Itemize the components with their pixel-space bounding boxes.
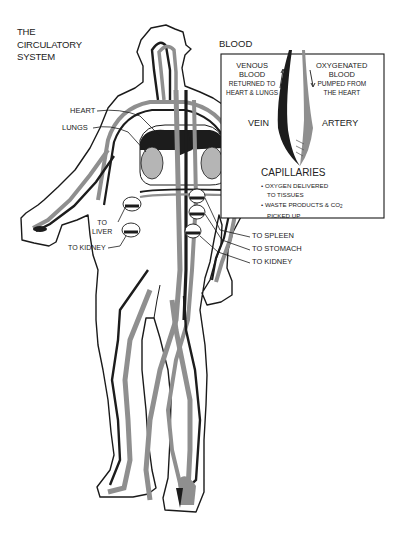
capillary-item: • WASTE PRODUCTS & CO2: [261, 200, 342, 211]
spleen-organ: [189, 189, 205, 203]
lung-left: [141, 147, 163, 179]
stomach-callout: TO STOMACH: [252, 245, 302, 254]
capillary-item: • OXYGEN DELIVERED: [261, 181, 342, 190]
title-line-2: CIRCULATORY: [17, 39, 82, 52]
liver-organ: [123, 197, 141, 211]
title-line-1: THE: [17, 26, 82, 39]
heart-callout: HEART: [70, 107, 95, 116]
liver-line-1: TO: [92, 218, 112, 227]
diagram-title: THE CIRCULATORY SYSTEM: [17, 26, 82, 64]
kidney-right-callout: TO KIDNEY: [252, 258, 292, 267]
lungs-callout: LUNGS: [62, 124, 88, 133]
capillary-item-text: • WASTE PRODUCTS & CO: [261, 201, 340, 208]
oxygenated-blood-label: OXYGENATED BLOOD PUMPED FROM THE HEART: [316, 61, 368, 97]
body-outline: [21, 25, 246, 512]
vein-label: VEIN: [248, 118, 269, 128]
venous-line-3: RETURNED TO: [226, 79, 278, 88]
venous-blood-label: VENOUS BLOOD RETURNED TO HEART & LUNGS: [226, 61, 278, 97]
capillaries-heading: CAPILLARIES: [261, 167, 325, 179]
artery-label: ARTERY: [322, 118, 358, 128]
liver-callout: TO LIVER: [92, 218, 112, 236]
kidney-left-callout: TO KIDNEY: [68, 244, 106, 252]
capillary-item-text: TO TISSUES: [267, 191, 304, 198]
hand-vessel: [33, 226, 47, 232]
lung-right: [201, 147, 223, 179]
title-line-3: SYSTEM: [17, 51, 82, 64]
blood-heading: BLOOD: [219, 39, 252, 50]
spleen-callout: TO SPLEEN: [252, 232, 294, 241]
capillary-item-cont: PICKED UP: [261, 211, 342, 220]
capillary-item-cont: TO TISSUES: [261, 190, 342, 199]
subscript: 2: [340, 204, 343, 209]
oxy-line-4: THE HEART: [316, 88, 368, 97]
oxy-line-3: PUMPED FROM: [316, 79, 368, 88]
venous-line-4: HEART & LUNGS: [226, 88, 278, 97]
venous-line-1: VENOUS: [226, 61, 278, 70]
liver-line-2: LIVER: [92, 227, 112, 236]
stomach-organ: [189, 205, 205, 219]
capillary-item-text: PICKED UP: [267, 212, 300, 219]
oxy-line-2: BLOOD: [316, 70, 368, 79]
capillaries-list: • OXYGEN DELIVERED TO TISSUES • WASTE PR…: [261, 181, 342, 220]
capillary-item-text: • OXYGEN DELIVERED: [261, 182, 328, 189]
kidney-right-organ: [185, 224, 201, 238]
oxy-line-1: OXYGENATED: [316, 61, 368, 70]
kidney-left-organ: [122, 223, 140, 237]
venous-line-2: BLOOD: [226, 70, 278, 79]
